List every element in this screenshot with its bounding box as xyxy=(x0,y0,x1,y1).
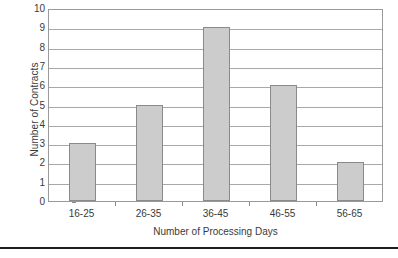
x-tick-label: 16-25 xyxy=(48,208,115,220)
x-tick-mark xyxy=(182,202,183,206)
x-tick-label: 56-65 xyxy=(316,208,383,220)
x-tick-label: 36-45 xyxy=(182,208,249,220)
y-tick-label: 4 xyxy=(25,120,45,130)
x-axis-tick-marks xyxy=(48,202,383,207)
bar xyxy=(203,27,230,201)
y-tick-label: 9 xyxy=(25,23,45,33)
y-tick-label: 6 xyxy=(25,81,45,91)
bar xyxy=(69,143,96,201)
bar-series xyxy=(49,10,382,201)
y-tick-label: 8 xyxy=(25,43,45,53)
footer-divider xyxy=(0,247,398,249)
bar xyxy=(270,85,297,201)
y-tick-label: 3 xyxy=(25,139,45,149)
y-axis-tick-labels: 012345678910 xyxy=(25,8,45,202)
x-tick-mark xyxy=(115,202,116,206)
y-tick-label: 10 xyxy=(25,4,45,14)
x-tick-mark xyxy=(249,202,250,206)
x-tick-label: 26-35 xyxy=(115,208,182,220)
x-tick-mark xyxy=(316,202,317,206)
y-tick-label: 0 xyxy=(25,197,45,207)
x-axis-tick-labels: 16-2526-3536-4546-5556-65 xyxy=(48,208,383,222)
y-tick-label: 5 xyxy=(25,101,45,111)
y-tick-label: 7 xyxy=(25,62,45,72)
x-axis-title: Number of Processing Days xyxy=(48,226,383,237)
bar xyxy=(136,105,163,202)
y-tick-label: 1 xyxy=(25,178,45,188)
y-tick-label: 2 xyxy=(25,158,45,168)
bar xyxy=(337,162,364,201)
plot-area xyxy=(48,9,383,202)
x-tick-label: 46-55 xyxy=(249,208,316,220)
bar-chart-figure: Number of Contracts 012345678910 16-2526… xyxy=(0,0,398,258)
